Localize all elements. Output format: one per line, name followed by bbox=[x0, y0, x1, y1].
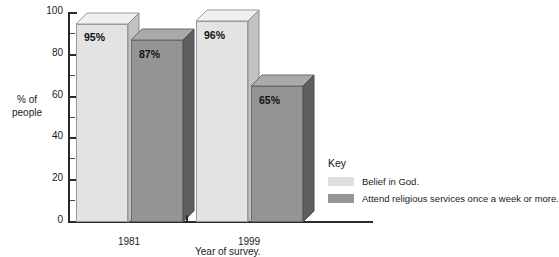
legend: Key Belief in God. Attend religious serv… bbox=[328, 157, 526, 210]
y-tick-mark-minor bbox=[70, 117, 75, 118]
legend-label: Belief in God. bbox=[362, 176, 419, 187]
bar-front-face bbox=[251, 86, 303, 222]
bar-1981-attend-services[interactable] bbox=[131, 40, 183, 222]
legend-item-attend-services[interactable]: Attend religious services once a week or… bbox=[328, 193, 526, 204]
legend-label: Attend religious services once a week or… bbox=[362, 193, 559, 204]
y-tick-label: 20 bbox=[52, 172, 63, 183]
bar-1981-belief-in-god[interactable] bbox=[76, 24, 128, 223]
bar-front-face bbox=[196, 21, 248, 222]
legend-swatch-dark bbox=[328, 194, 354, 203]
bar-label-1981-attend: 87% bbox=[139, 48, 160, 60]
x-category-label-1981: 1981 bbox=[99, 236, 159, 247]
bar-label-1999-attend: 65% bbox=[259, 94, 280, 106]
y-tick-mark-minor bbox=[70, 33, 75, 34]
y-tick-mark-minor bbox=[70, 75, 75, 76]
y-axis-label: % of people bbox=[2, 94, 52, 119]
legend-item-belief-in-god[interactable]: Belief in God. bbox=[328, 176, 526, 187]
bar-1999-attend-services[interactable] bbox=[251, 86, 303, 222]
y-tick-label: 100 bbox=[46, 5, 63, 16]
y-tick-label: 60 bbox=[52, 89, 63, 100]
x-axis-title: Year of survey. bbox=[195, 246, 261, 257]
y-axis-line bbox=[68, 12, 70, 223]
y-axis-label-line1: % of bbox=[2, 94, 52, 107]
bar-front-face bbox=[76, 24, 128, 223]
y-axis-label-line2: people bbox=[2, 107, 52, 120]
y-tick-label: 0 bbox=[57, 214, 63, 225]
bar-label-1981-belief: 95% bbox=[84, 31, 105, 43]
bar-1999-belief-in-god[interactable] bbox=[196, 21, 248, 222]
bar-label-1999-belief: 96% bbox=[204, 29, 225, 41]
bar-front-face bbox=[131, 40, 183, 222]
y-tick-mark-minor bbox=[70, 200, 75, 201]
x-axis-group-separator-tick bbox=[186, 215, 188, 221]
legend-swatch-light bbox=[328, 177, 354, 186]
y-tick-label: 40 bbox=[52, 130, 63, 141]
legend-title: Key bbox=[328, 157, 526, 169]
y-tick-label: 80 bbox=[52, 47, 63, 58]
y-tick-mark-minor bbox=[70, 158, 75, 159]
